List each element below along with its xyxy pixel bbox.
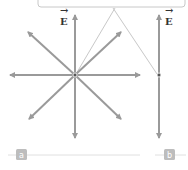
panel-a-label: a bbox=[19, 151, 24, 160]
arrow-up-left bbox=[28, 32, 75, 75]
charge-point-b bbox=[157, 73, 161, 77]
field-label-b: E bbox=[165, 16, 173, 27]
panel-a-badge: a bbox=[16, 149, 27, 160]
panel-b-badge: b bbox=[164, 149, 175, 160]
field-label-a: E bbox=[60, 16, 68, 27]
panel-b-label: b bbox=[167, 151, 172, 160]
vector-arrow-b-icon: → bbox=[165, 5, 174, 16]
charge-point-a bbox=[73, 73, 77, 77]
electric-field-diagram: E → E → a b bbox=[0, 0, 188, 170]
callout-lines bbox=[76, 8, 157, 74]
arrow-up-right bbox=[75, 32, 121, 75]
arrow-down-right bbox=[75, 75, 121, 119]
vector-arrow-a-icon: → bbox=[60, 5, 69, 16]
arrow-down-left bbox=[29, 75, 75, 119]
